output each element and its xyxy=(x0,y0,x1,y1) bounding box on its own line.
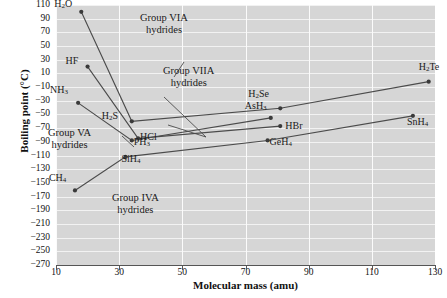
group-via-annotation: Group VIAhydrides xyxy=(140,12,188,36)
annotation-line-1: Group IVA xyxy=(112,192,159,204)
x-axis-line xyxy=(56,265,436,266)
point-label-hf: HF xyxy=(66,56,79,66)
y-tick-label: −170 xyxy=(16,192,50,201)
annotation-line-1: Group VA xyxy=(48,127,91,139)
data-point-marker xyxy=(269,116,273,120)
point-label-ph3: PH3 xyxy=(134,137,150,149)
annotation-line-1: Group VIA xyxy=(140,12,188,24)
data-point-marker xyxy=(79,10,83,14)
data-point-marker xyxy=(85,64,89,68)
x-tick-label: 130 xyxy=(420,268,447,277)
series-lines xyxy=(56,5,435,265)
y-tick-label: −50 xyxy=(16,109,50,118)
x-tick-mark xyxy=(119,266,120,270)
x-tick-mark xyxy=(246,266,247,270)
y-tick-label: −130 xyxy=(16,164,50,173)
y-tick-label: −150 xyxy=(16,178,50,187)
point-label-geh4: GeH4 xyxy=(270,137,292,149)
point-label-h2te: H2Te xyxy=(419,62,440,74)
x-tick-mark xyxy=(435,266,436,270)
y-tick-label: −190 xyxy=(16,205,50,214)
x-tick-mark xyxy=(56,266,57,270)
group-iva-annotation: Group IVAhydrides xyxy=(112,192,159,216)
y-tick-label: 10 xyxy=(16,68,50,77)
y-tick-label: −90 xyxy=(16,137,50,146)
data-point-marker xyxy=(278,106,282,110)
y-tick-label: 50 xyxy=(16,41,50,50)
point-label-hbr: HBr xyxy=(285,121,302,131)
y-tick-label: −210 xyxy=(16,219,50,228)
y-tick-label: −70 xyxy=(16,123,50,132)
x-tick-mark xyxy=(182,266,183,270)
point-label-snh4: SnH4 xyxy=(407,117,428,129)
y-tick-label: 70 xyxy=(16,27,50,36)
point-label-ash3: AsH3 xyxy=(245,101,267,113)
annotation-line-2: hydrides xyxy=(112,204,159,216)
y-tick-label: −10 xyxy=(16,82,50,91)
x-tick-mark xyxy=(309,266,310,270)
data-point-marker xyxy=(76,101,80,105)
data-point-marker xyxy=(130,119,134,123)
point-label-nh3: NH3 xyxy=(50,85,68,97)
y-tick-label: −30 xyxy=(16,96,50,105)
data-point-marker xyxy=(278,124,282,128)
group-viia-annotation: Group VIIAhydrides xyxy=(163,65,214,89)
x-tick-mark xyxy=(372,266,373,270)
point-label-sih4: SiH4 xyxy=(121,154,140,166)
annotation-line-1: Group VIIA xyxy=(163,65,214,77)
point-label-h2o: H2O xyxy=(54,0,72,11)
data-point-marker xyxy=(73,188,77,192)
y-tick-label: −110 xyxy=(16,151,50,160)
x-axis-title: Molecular mass (amu) xyxy=(56,279,435,291)
point-label-h2s: H2S xyxy=(102,111,118,123)
group-va-annotation: Group VAhydrides xyxy=(48,127,91,151)
annotation-line-2: hydrides xyxy=(48,139,91,151)
point-label-ch4: CH4 xyxy=(49,173,66,185)
annotation-leader-line xyxy=(164,97,206,137)
y-tick-label: 90 xyxy=(16,14,50,23)
annotation-line-2: hydrides xyxy=(140,24,188,36)
y-tick-label: 30 xyxy=(16,55,50,64)
data-point-marker xyxy=(427,80,431,84)
y-tick-label: −250 xyxy=(16,246,50,255)
y-tick-label: 110 xyxy=(16,0,50,9)
y-tick-label: −230 xyxy=(16,233,50,242)
plot-area xyxy=(56,5,435,265)
annotation-line-2: hydrides xyxy=(163,77,214,89)
